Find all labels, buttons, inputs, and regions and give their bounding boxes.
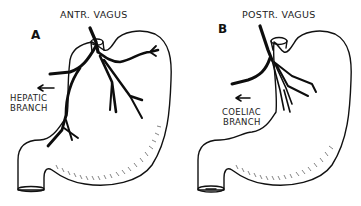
duodenum-opening xyxy=(18,187,44,192)
panel-b-title: POSTR. VAGUS xyxy=(242,9,316,20)
vagus-nerve-figure: ANTR. VAGUS A HEPATIC BRANCH xyxy=(0,0,361,206)
hepatic-branch-label-line1: HEPATIC xyxy=(10,93,47,103)
greater-curvature-hatching xyxy=(236,146,333,180)
coeliac-branch-label-line2: BRANCH xyxy=(223,117,261,127)
hepatic-arrow-icon xyxy=(38,85,54,91)
stomach-outline xyxy=(198,31,351,190)
coeliac-branch-label-line1: COELIAC xyxy=(222,107,261,117)
stomach-posterior-illustration xyxy=(180,0,361,206)
coeliac-arrow-icon xyxy=(236,95,250,101)
panel-a-anterior-vagus: ANTR. VAGUS A HEPATIC BRANCH xyxy=(0,0,180,206)
panel-a-title: ANTR. VAGUS xyxy=(60,9,128,20)
panel-a-letter: A xyxy=(31,28,40,42)
esophagus-opening xyxy=(271,38,287,45)
hepatic-branch-label-line2: BRANCH xyxy=(10,103,48,113)
panel-b-letter: B xyxy=(218,22,227,36)
panel-b-posterior-vagus: POSTR. VAGUS B COELIAC BRANCH xyxy=(180,0,361,206)
